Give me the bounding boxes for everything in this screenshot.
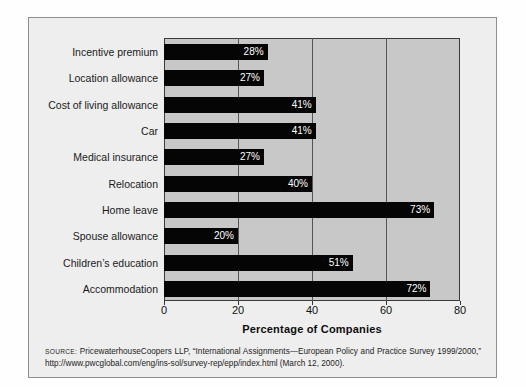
bar-value-label: 51% [329, 255, 349, 271]
bar: 20% [164, 228, 238, 244]
source-note: SOURCE: PricewaterhouseCoopers LLP, “Int… [45, 346, 481, 369]
category-label: Accommodation [0, 281, 164, 297]
category-label: Incentive premium [0, 44, 164, 60]
bar-row: Cost of living allowance41% [164, 97, 460, 113]
bar-row: Medical insurance27% [164, 149, 460, 165]
category-label: Cost of living allowance [0, 97, 164, 113]
bar: 28% [164, 44, 268, 60]
tick-label: 80 [454, 304, 466, 316]
x-axis-title: Percentage of Companies [164, 323, 460, 335]
bar: 40% [164, 176, 312, 192]
chart-area: Incentive premium28%Location allowance27… [29, 18, 498, 318]
bar: 73% [164, 202, 434, 218]
bar-row: Location allowance27% [164, 70, 460, 86]
source-label: SOURCE: [45, 348, 77, 355]
bar: 41% [164, 97, 316, 113]
bar-row: Home leave73% [164, 202, 460, 218]
bar-value-label: 41% [292, 97, 312, 113]
tick-label: 60 [380, 304, 392, 316]
chart-frame: Incentive premium28%Location allowance27… [28, 17, 497, 378]
bar: 27% [164, 70, 264, 86]
bar-value-label: 28% [244, 44, 264, 60]
bar-row: Incentive premium28% [164, 44, 460, 60]
bar: 72% [164, 281, 430, 297]
tick-label: 20 [232, 304, 244, 316]
tick-label: 0 [161, 304, 167, 316]
bar: 27% [164, 149, 264, 165]
tick-label: 40 [306, 304, 318, 316]
bar-row: Accommodation72% [164, 281, 460, 297]
bar-value-label: 40% [288, 176, 308, 192]
source-body: PricewaterhouseCoopers LLP, “Internation… [45, 347, 481, 368]
bar-row: Children’s education51% [164, 255, 460, 271]
category-label: Spouse allowance [0, 228, 164, 244]
bar-row: Car41% [164, 123, 460, 139]
category-label: Home leave [0, 202, 164, 218]
figure-container: Incentive premium28%Location allowance27… [0, 0, 526, 387]
bar-row: Spouse allowance20% [164, 228, 460, 244]
bar: 41% [164, 123, 316, 139]
bar-value-label: 27% [240, 149, 260, 165]
category-label: Children’s education [0, 255, 164, 271]
bar-value-label: 27% [240, 70, 260, 86]
bar-value-label: 72% [406, 281, 426, 297]
bar-value-label: 41% [292, 123, 312, 139]
category-label: Car [0, 123, 164, 139]
bar-row: Relocation40% [164, 176, 460, 192]
bar: 51% [164, 255, 353, 271]
category-label: Relocation [0, 176, 164, 192]
bar-value-label: 20% [214, 228, 234, 244]
bar-value-label: 73% [410, 202, 430, 218]
category-label: Location allowance [0, 70, 164, 86]
category-label: Medical insurance [0, 149, 164, 165]
